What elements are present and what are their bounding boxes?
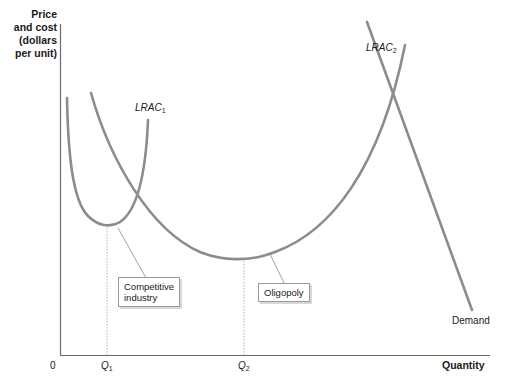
- q1-tick-label: Q1: [101, 360, 113, 375]
- y-label-line: (dollars: [14, 34, 57, 47]
- competitive-leader-line: [118, 228, 146, 278]
- lrac1-curve: [67, 98, 148, 225]
- demand-curve: [367, 22, 472, 310]
- q1-subscript: 1: [109, 365, 113, 372]
- origin-label: 0: [50, 360, 56, 372]
- lrac2-curve: [91, 45, 405, 259]
- y-label-line: Price: [14, 8, 57, 21]
- oligopoly-callout: Oligopoly: [258, 283, 310, 302]
- y-label-line: and cost: [14, 21, 57, 34]
- competitive-industry-callout: Competitive industry: [118, 277, 180, 307]
- demand-label: Demand: [452, 315, 490, 327]
- q2-base: Q: [238, 360, 246, 371]
- lrac1-subscript: 1: [162, 107, 166, 114]
- callout-line: industry: [124, 292, 174, 303]
- lrac2-subscript: 2: [393, 47, 397, 54]
- lrac2-label: LRAC2: [366, 42, 397, 57]
- lrac2-base: LRAC: [366, 42, 393, 53]
- y-axis-label: Price and cost (dollars per unit): [14, 8, 57, 60]
- q2-tick-label: Q2: [238, 360, 250, 375]
- x-axis-label: Quantity: [442, 359, 485, 371]
- lrac1-base: LRAC: [135, 102, 162, 113]
- q1-base: Q: [101, 360, 109, 371]
- diagram-canvas: [0, 0, 512, 391]
- q2-subscript: 2: [246, 365, 250, 372]
- lrac1-label: LRAC1: [135, 102, 166, 117]
- oligopoly-leader-line: [270, 254, 284, 283]
- y-label-line: per unit): [14, 47, 57, 60]
- callout-line: Competitive: [124, 281, 174, 292]
